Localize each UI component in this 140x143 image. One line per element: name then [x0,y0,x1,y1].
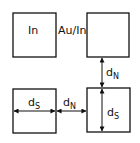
ds-horizontal-label: dS [28,96,40,111]
dn-horizontal-label: dN [63,96,76,111]
dn-vertical-label: dN [106,66,119,81]
auin-square [87,13,129,57]
ds-vertical-label: dS [107,106,119,121]
in-label: In [28,24,38,37]
diagram-canvas: In Au/In dN dS dS dN [0,0,140,143]
au-in-label: Au/In [58,24,86,37]
